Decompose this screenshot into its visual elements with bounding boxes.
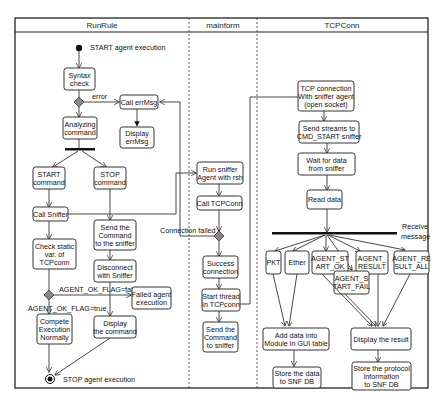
fork-bar-command (65, 148, 95, 151)
lane-title-tcpconn: TCPConn (324, 21, 359, 30)
node-label: with Sniffer (96, 271, 133, 280)
node-label: SULT_ALL (394, 262, 429, 271)
flag-true-label: AGENT_OK_FLAG=true (28, 304, 107, 313)
node-label: (open socket) (304, 100, 348, 109)
node-label: from sniffer (309, 164, 345, 173)
node-stop-command: STOPcommand (94, 167, 126, 189)
node-run-sniffer: Run snifferAgent with rsh (197, 162, 243, 184)
node-label: ART_OK (316, 262, 345, 271)
node-label: to SNF DB (280, 377, 315, 386)
node-display-errmsg: DisplayerrMsg (120, 127, 154, 148)
node-label: Call TCPConn (197, 199, 243, 208)
node-display-command: Displaythe command (93, 316, 137, 338)
error-label: error (92, 92, 108, 101)
node-disconnect: Disconnectwith Sniffer (94, 260, 136, 282)
node-label: CMD_START sniffer (297, 132, 362, 141)
receive-message-label: Receive (402, 222, 428, 231)
flag-false-label: AGENT_OK_FLAG=false (59, 285, 140, 294)
node-label: errMsg (126, 137, 148, 146)
node-store-data-snf: Store the datato SNF DB (273, 367, 321, 388)
node-label: TART_FAIL (333, 282, 370, 291)
node-label: Display the result (353, 335, 408, 344)
stop-label: STOP agent execution (63, 375, 135, 384)
decision-agent-ok (44, 290, 54, 300)
node-label: command (33, 178, 65, 187)
activity-diagram: RunRule mainform TCPConn START agent exe… (0, 0, 447, 415)
receive-message-label-2: message (401, 232, 430, 241)
node-label: to sniffer (207, 341, 235, 350)
lane-title-runrule: RunRule (86, 21, 118, 30)
start-label: START agent execution (90, 43, 166, 52)
node-label: Ether (288, 258, 306, 267)
node-label: to the sniffer (95, 239, 135, 248)
node-call-errmsg: Call errMsg (120, 95, 158, 109)
node-label: Read data (308, 195, 341, 204)
node-success-connection: Successconnection (203, 256, 238, 278)
start-node (76, 45, 82, 51)
node-send-streams: Send streams toCMD_START sniffer (297, 121, 362, 143)
node-label: command (94, 178, 126, 187)
lane-title-mainform: mainform (206, 21, 240, 30)
node-start-thread: Start threadin TCPconn (202, 289, 240, 311)
node-ether: Ether (285, 251, 309, 274)
node-check-static: Check staticvar. ofTCPconn (33, 239, 76, 269)
node-label: RESULT (358, 262, 386, 271)
decision-syntax (74, 97, 84, 107)
node-call-sniffer: Call Sniffer (33, 207, 69, 221)
node-label: Call Sniffer (33, 210, 69, 219)
node-label: command (64, 128, 96, 137)
node-label: Module in GUI table (264, 339, 328, 348)
node-tcp-connection: TCP connectionWith sniffer agent(open so… (298, 81, 354, 111)
node-agent-result-all: AGENT_RESULT_ALL (392, 251, 431, 274)
end-node (48, 377, 53, 382)
node-agent-start-fail: AGENT_START_FAIL (333, 271, 370, 294)
node-pkt: PKT (266, 251, 281, 274)
node-add-data-gui: Add data intoModule in GUI table (263, 328, 329, 350)
node-syntax-check: Syntaxcheck (64, 68, 95, 90)
node-failed-agent-execution: Failed agentexecution (132, 287, 172, 309)
node-read-data: Read data (307, 190, 342, 209)
node-label: to SNF DB (364, 380, 399, 389)
node-label: the command (93, 327, 137, 336)
node-store-protocol: Store the protocolinformationto SNF DB (352, 362, 411, 390)
node-compete-execution: CompeteExecutionNormally (37, 314, 72, 344)
node-label: check (70, 79, 89, 88)
node-label: Normally (40, 333, 69, 342)
node-start-command: STARTcommand (33, 167, 65, 189)
node-label: in TCPconn (202, 300, 239, 309)
fork-bar-receive (272, 232, 397, 235)
node-wait-for-data: Wait for datafrom sniffer (298, 153, 355, 175)
node-display-result: Display the result (351, 328, 411, 350)
node-analyzing-command: Analyzingcommand (63, 117, 97, 139)
node-send-command-to-sniffer-mainform: Send theCommandto sniffer (203, 322, 238, 352)
node-label: PKT (267, 258, 282, 267)
node-label: execution (136, 298, 167, 307)
node-label: Call errMsg (121, 98, 158, 107)
node-label: connection (203, 267, 238, 276)
connection-failed-label: Connection failed (160, 226, 216, 235)
node-call-tcpconn: Call TCPConn (197, 196, 243, 210)
node-send-command-to-sniffer: Send theCommandto the sniffer (94, 220, 136, 250)
node-label: TCPconn (40, 258, 70, 267)
node-label: Agent with rsh (197, 173, 243, 182)
